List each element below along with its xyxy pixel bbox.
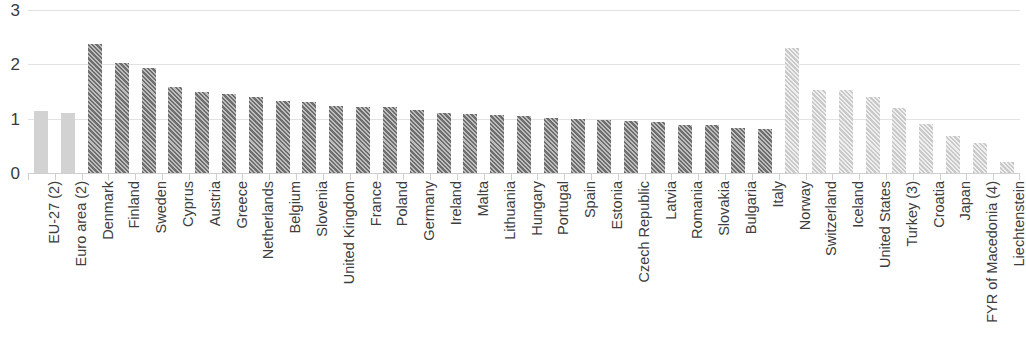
bar-slot xyxy=(806,10,833,173)
x-tick xyxy=(752,173,753,180)
x-axis-label: Japan xyxy=(958,181,973,221)
bar[interactable] xyxy=(866,97,880,173)
x-axis xyxy=(28,173,1020,181)
x-axis-label: Croatia xyxy=(932,181,947,228)
bar-slot xyxy=(564,10,591,173)
bar-slot xyxy=(752,10,779,173)
bar-slot xyxy=(108,10,135,173)
bar[interactable] xyxy=(544,118,558,173)
x-axis-label: FYR of Macedonia (4) xyxy=(985,181,1000,323)
x-tick xyxy=(323,173,324,180)
bar[interactable] xyxy=(195,92,209,174)
x-axis-label: Sweden xyxy=(154,181,169,233)
bars xyxy=(28,10,1020,173)
x-axis-label: United Kingdom xyxy=(342,181,357,284)
x-tick xyxy=(1019,173,1020,180)
bar[interactable] xyxy=(463,114,477,173)
bar[interactable] xyxy=(222,94,236,173)
x-tick xyxy=(564,173,565,180)
bar-slot xyxy=(216,10,243,173)
x-tick xyxy=(189,173,190,180)
bar-slot xyxy=(671,10,698,173)
x-tick xyxy=(296,173,297,180)
x-tick xyxy=(457,173,458,180)
bar-slot xyxy=(296,10,323,173)
x-axis-label: Netherlands xyxy=(261,181,276,259)
bar[interactable] xyxy=(571,119,585,173)
bar[interactable] xyxy=(168,87,182,173)
bar[interactable] xyxy=(410,110,424,173)
x-tick xyxy=(430,173,431,180)
bar-slot xyxy=(993,10,1020,173)
bar-slot xyxy=(618,10,645,173)
bar[interactable] xyxy=(383,107,397,173)
bar[interactable] xyxy=(329,106,343,173)
x-tick xyxy=(216,173,217,180)
x-axis-label: Slovenia xyxy=(315,181,330,237)
x-axis-label: Cyprus xyxy=(181,181,196,227)
x-axis-label: Malta xyxy=(476,181,491,216)
bar[interactable] xyxy=(142,68,156,173)
bar[interactable] xyxy=(34,111,48,173)
bar[interactable] xyxy=(490,115,504,173)
bar[interactable] xyxy=(597,120,611,173)
bar-slot xyxy=(886,10,913,173)
x-tick xyxy=(82,173,83,180)
x-tick xyxy=(806,173,807,180)
bar[interactable] xyxy=(705,125,719,173)
bar[interactable] xyxy=(517,116,531,173)
x-axis-label: EU-27 (2) xyxy=(47,181,62,244)
x-axis-label: Hungary xyxy=(530,181,545,236)
x-tick xyxy=(537,173,538,180)
x-axis-label: Ireland xyxy=(449,181,464,225)
y-axis: 0123 xyxy=(0,0,28,185)
x-tick xyxy=(591,173,592,180)
x-tick xyxy=(377,173,378,180)
bar[interactable] xyxy=(302,102,316,173)
x-axis-line xyxy=(28,173,1020,174)
x-tick xyxy=(269,173,270,180)
bar-slot xyxy=(779,10,806,173)
x-axis-label: Euro area (2) xyxy=(74,181,89,266)
x-axis-label: Latvia xyxy=(664,181,679,220)
bar[interactable] xyxy=(812,90,826,173)
bar-slot xyxy=(430,10,457,173)
bar[interactable] xyxy=(892,108,906,173)
bar[interactable] xyxy=(946,136,960,173)
bar[interactable] xyxy=(61,113,75,173)
x-tick xyxy=(645,173,646,180)
bar[interactable] xyxy=(678,125,692,173)
bar[interactable] xyxy=(731,128,745,173)
x-axis-label: France xyxy=(369,181,384,226)
bar-slot xyxy=(537,10,564,173)
bar[interactable] xyxy=(919,124,933,173)
x-axis-label: Norway xyxy=(798,181,813,230)
x-axis-label: Germany xyxy=(422,181,437,241)
x-axis-label: Greece xyxy=(235,181,250,229)
bar[interactable] xyxy=(839,90,853,173)
bar-slot xyxy=(457,10,484,173)
bar-slot xyxy=(645,10,672,173)
bar[interactable] xyxy=(356,107,370,173)
x-axis-label: Austria xyxy=(208,181,223,226)
bar[interactable] xyxy=(624,121,638,173)
bar[interactable] xyxy=(973,143,987,173)
bar[interactable] xyxy=(651,122,665,173)
y-tick-label: 0 xyxy=(11,165,20,182)
bar[interactable] xyxy=(249,97,263,173)
bar-slot xyxy=(162,10,189,173)
bar[interactable] xyxy=(88,44,102,173)
bar[interactable] xyxy=(437,113,451,173)
x-tick xyxy=(832,173,833,180)
bar[interactable] xyxy=(1000,162,1014,173)
bar[interactable] xyxy=(758,129,772,173)
x-tick xyxy=(28,173,29,180)
bar[interactable] xyxy=(785,48,799,173)
bar[interactable] xyxy=(115,63,129,173)
x-axis-label: Czech Republic xyxy=(637,181,652,283)
x-axis-label: Estonia xyxy=(610,181,625,229)
x-tick xyxy=(484,173,485,180)
bar-slot xyxy=(913,10,940,173)
bar[interactable] xyxy=(276,101,290,173)
x-axis-label: Belgium xyxy=(288,181,303,233)
